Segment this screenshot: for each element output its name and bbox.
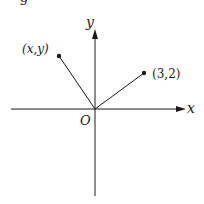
point-xy-dot-icon — [57, 54, 61, 58]
point-3-2-dot-icon — [142, 71, 146, 75]
y-axis — [92, 29, 98, 196]
x-axis-arrow-icon — [176, 106, 186, 112]
y-axis-label: y — [85, 14, 95, 30]
top-partial-text: g — [20, 0, 28, 5]
point-3-2-label: (3,2) — [152, 67, 180, 81]
origin-label: O — [80, 113, 91, 128]
coordinate-diagram: g y x O (x,y) (3,2) — [0, 0, 204, 204]
y-axis-arrow-icon — [92, 29, 98, 39]
vector-xy — [57, 54, 95, 109]
vector-3-2 — [95, 71, 146, 109]
x-axis-label: x — [187, 100, 195, 116]
point-xy-label: (x,y) — [22, 42, 49, 56]
